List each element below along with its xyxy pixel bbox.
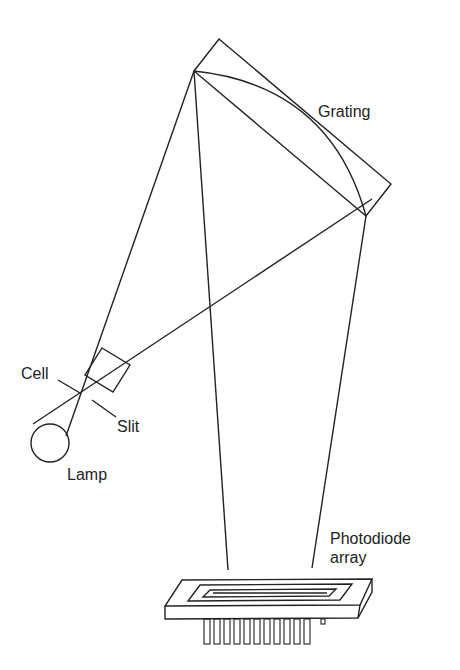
grating-icon [194, 39, 391, 216]
grating-label: Grating [318, 103, 370, 121]
photodiode-array-icon [165, 579, 372, 644]
cell-pointer [58, 380, 80, 393]
spectrometer-diagram: Grating Cell Slit Lamp Photodiode array [0, 0, 460, 670]
slit-pointer [92, 400, 116, 417]
photodiode-label: Photodiode [330, 530, 411, 548]
lamp-label: Lamp [67, 466, 107, 484]
array-label: array [330, 549, 366, 567]
slit-label: Slit [117, 418, 139, 436]
optical-path-drawing [0, 0, 460, 670]
lamp-icon [31, 424, 69, 462]
light-rays [33, 71, 372, 570]
cell-label: Cell [21, 365, 49, 383]
